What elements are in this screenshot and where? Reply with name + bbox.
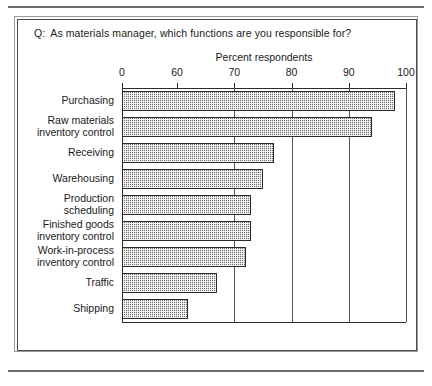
x-tick-label-100: 100: [397, 66, 415, 78]
x-tick-label-70: 70: [228, 66, 240, 78]
category-label: Work-in-process inventory control: [4, 244, 114, 269]
bar: [122, 195, 251, 215]
category-label: Purchasing: [4, 94, 114, 107]
bar: [122, 169, 263, 189]
category-label: Production scheduling: [4, 192, 114, 217]
category-label: Shipping: [4, 302, 114, 315]
x-tick-label-90: 90: [343, 66, 355, 78]
bottom-rule: [8, 370, 424, 372]
plot-area: // 060708090100: [122, 88, 406, 322]
x-tick-60: [177, 83, 178, 89]
category-label: Warehousing: [4, 172, 114, 185]
category-label: Traffic: [4, 276, 114, 289]
bar: [122, 273, 217, 293]
bar: [122, 299, 188, 319]
bar: [122, 117, 372, 137]
question-text: As materials manager, which functions ar…: [50, 27, 351, 39]
bar: [122, 91, 395, 111]
figure-panel: Q:As materials manager, which functions …: [0, 0, 432, 386]
axis-top-line: [122, 88, 406, 89]
x-tick-0: [122, 83, 123, 89]
x-tick-label-60: 60: [171, 66, 183, 78]
bar: [122, 143, 274, 163]
x-tick-label-0: 0: [119, 66, 125, 78]
top-rule: [8, 6, 424, 8]
category-label: Receiving: [4, 146, 114, 159]
question-line: Q:As materials manager, which functions …: [34, 27, 351, 39]
category-labels: PurchasingRaw materials inventory contro…: [0, 88, 114, 322]
category-label: Finished goods inventory control: [4, 218, 114, 243]
x-axis-title: Percent respondents: [122, 51, 406, 63]
x-tick-label-80: 80: [286, 66, 298, 78]
gridline-100: [406, 88, 407, 322]
bar: [122, 221, 251, 241]
question-prefix: Q:: [34, 27, 45, 39]
category-label: Raw materials inventory control: [4, 114, 114, 139]
bar: [122, 247, 246, 267]
axis-bottom-line: [122, 322, 406, 323]
